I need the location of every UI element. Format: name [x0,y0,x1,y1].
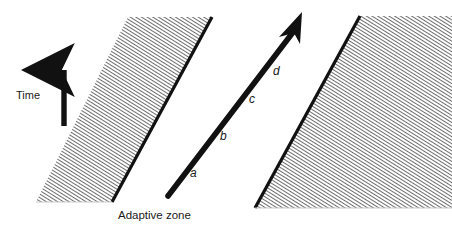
adaptive-zone-caption: Adaptive zone [118,209,191,221]
diagram-canvas: Time a b c d Adaptive zone [0,0,452,233]
adaptive-zone-diagram: Time a b c d Adaptive zone [0,0,452,233]
time-axis-label: Time [16,89,40,101]
segment-label-d: d [273,64,280,78]
segment-label-a: a [190,166,197,180]
segment-label-b: b [220,129,227,143]
segment-label-c: c [249,92,255,106]
